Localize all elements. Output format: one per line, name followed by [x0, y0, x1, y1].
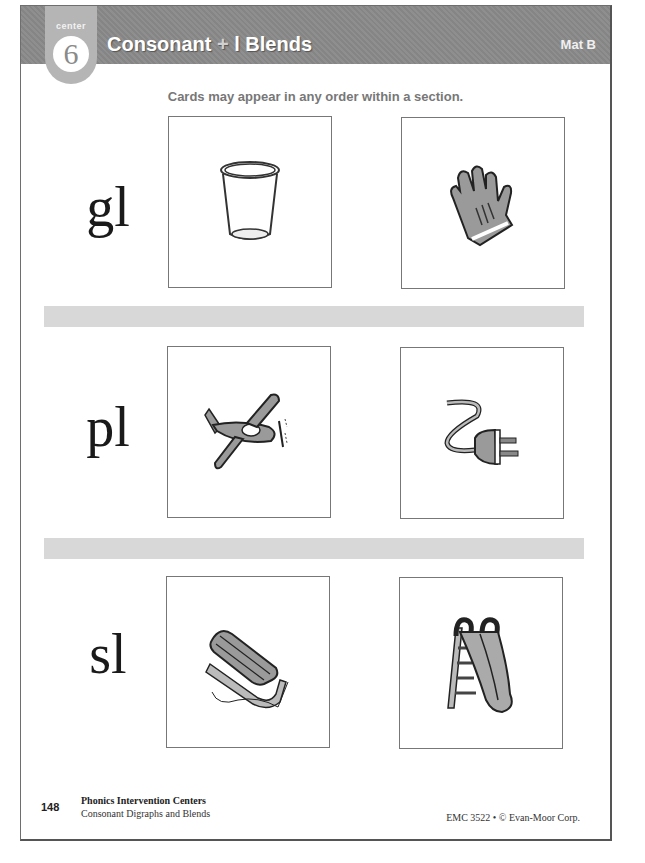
picture-card-glove[interactable] [401, 117, 565, 289]
mat-label: Mat B [561, 37, 596, 52]
title-plus: + [217, 33, 229, 55]
page-title: Consonant + l Blends [107, 33, 312, 56]
title-part-consonant: Consonant [107, 33, 211, 55]
slide-icon [436, 608, 526, 718]
blend-label: sl [53, 626, 163, 682]
title-part-blends: l Blends [234, 33, 312, 55]
picture-card-plug[interactable] [400, 347, 564, 519]
center-number: 6 [53, 36, 89, 72]
picture-card-glass[interactable] [168, 116, 332, 288]
blend-label: pl [53, 399, 163, 455]
section-pl: pl [21, 344, 610, 519]
section-divider [44, 538, 584, 559]
section-gl: gl [21, 114, 610, 289]
page-number: 148 [41, 801, 59, 813]
airplane-icon [199, 387, 299, 477]
glass-icon [210, 152, 290, 252]
book-title: Phonics Intervention Centers [81, 795, 206, 806]
picture-card-plane[interactable] [167, 346, 331, 518]
blend-label: gl [53, 179, 163, 235]
sled-icon [198, 612, 298, 712]
book-subtitle: Consonant Digraphs and Blends [81, 808, 210, 819]
section-divider [44, 306, 584, 327]
activity-mat-page: Consonant + l Blends Mat B center 6 Card… [20, 5, 612, 841]
center-badge: center 6 [45, 6, 97, 84]
plug-icon [437, 388, 527, 478]
glove-icon [438, 153, 528, 253]
section-sl: sl [21, 574, 610, 749]
header-banner: Consonant + l Blends Mat B [21, 6, 610, 64]
instructions-text: Cards may appear in any order within a s… [21, 89, 610, 104]
picture-card-slide[interactable] [399, 577, 563, 749]
picture-card-sled[interactable] [166, 576, 330, 748]
copyright-notice: EMC 3522 • © Evan-Moor Corp. [446, 812, 580, 823]
center-label: center [45, 21, 97, 31]
